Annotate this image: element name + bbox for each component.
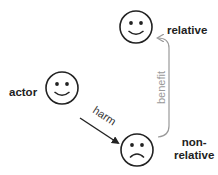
nonrelative-label-line2: relative — [174, 149, 214, 162]
benefit-label: benefit — [155, 71, 167, 104]
harm-arrow: harm — [80, 104, 118, 143]
nonrelative-face-icon — [121, 134, 153, 166]
nonrelative-label-line1: non- — [174, 136, 214, 149]
benefit-arrow: benefit — [155, 38, 169, 137]
harm-label: harm — [91, 104, 119, 128]
nonrelative-label: non- relative — [174, 136, 214, 162]
actor-label: actor — [9, 86, 37, 99]
relative-label: relative — [167, 24, 207, 37]
actor-face-icon — [46, 72, 78, 104]
relative-face-icon — [120, 11, 152, 43]
